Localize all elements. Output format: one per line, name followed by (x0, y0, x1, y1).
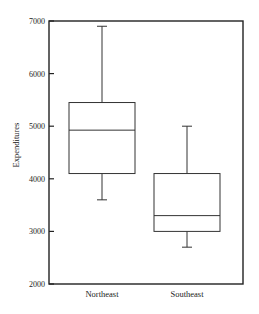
box-northeast (69, 26, 135, 200)
y-tick-label: 6000 (29, 70, 45, 79)
box-plot-chart: 200030004000500060007000 NortheastSouthe… (0, 0, 259, 314)
plot-frame (49, 21, 243, 284)
boxes (69, 26, 220, 247)
x-axis-labels: NortheastSoutheast (85, 289, 204, 299)
y-tick-label: 7000 (29, 17, 45, 26)
y-tick-label: 2000 (29, 280, 45, 289)
y-tick-label: 3000 (29, 227, 45, 236)
y-tick-label: 4000 (29, 175, 45, 184)
y-axis: 200030004000500060007000 (29, 17, 54, 289)
iqr-box (69, 103, 135, 174)
box-southeast (154, 126, 220, 247)
x-category-label: Northeast (85, 289, 119, 299)
plot-border (49, 21, 243, 284)
y-axis-title: Expenditures (11, 123, 21, 168)
iqr-box (154, 174, 220, 232)
y-tick-label: 5000 (29, 122, 45, 131)
x-category-label: Southeast (170, 289, 204, 299)
